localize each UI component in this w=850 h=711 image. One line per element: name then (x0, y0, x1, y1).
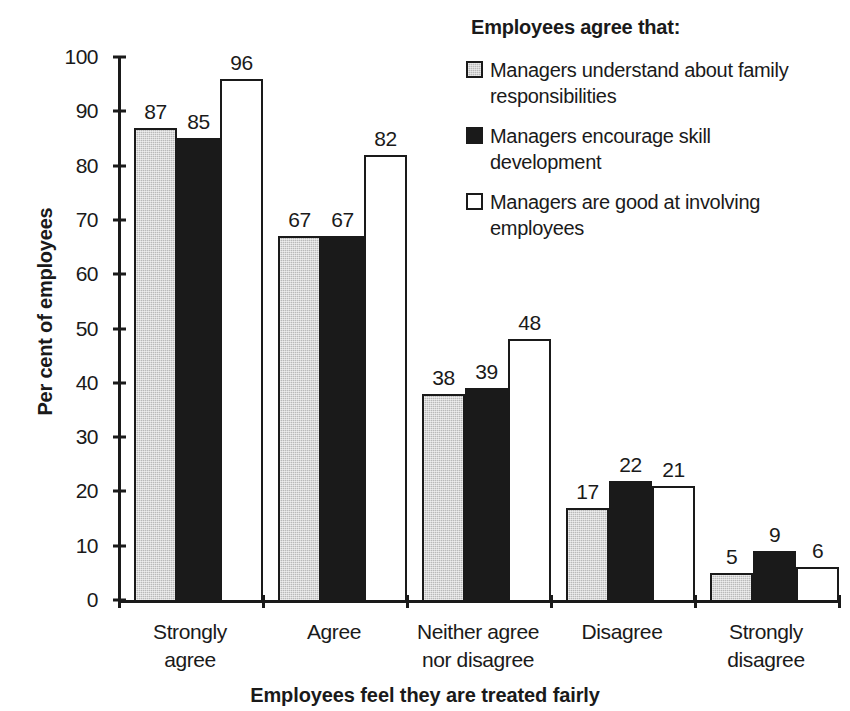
legend-item-label-line: Managers understand about family (490, 57, 788, 83)
y-tick-mark (113, 110, 126, 113)
x-category-label: Disagree (582, 618, 663, 646)
bar-chart: Per cent of employees 010203040506070809… (0, 0, 850, 711)
bar-value-label: 21 (662, 458, 684, 482)
bar-value-label: 22 (619, 453, 641, 477)
bar (796, 567, 839, 602)
bar-value-label: 67 (331, 208, 353, 232)
y-tick-label: 80 (42, 154, 98, 178)
legend: Employees agree that: Managers understan… (466, 16, 844, 255)
y-tick-mark (113, 56, 126, 59)
bar-value-label: 48 (518, 311, 540, 335)
x-tick-mark (118, 595, 121, 608)
x-category-label: Neither agreenor disagree (417, 618, 539, 674)
y-tick-mark (113, 381, 126, 384)
bar-value-label: 87 (144, 100, 166, 124)
legend-item: Managers understand about familyresponsi… (466, 57, 844, 109)
bar-value-label: 85 (187, 110, 209, 134)
y-tick-mark (113, 218, 126, 221)
x-axis-title: Employees feel they are treated fairly (0, 684, 850, 707)
legend-item: Managers encourage skilldevelopment (466, 123, 844, 175)
legend-item: Managers are good at involvingemployees (466, 189, 844, 241)
y-tick-label: 30 (42, 425, 98, 449)
y-tick-label: 50 (42, 317, 98, 341)
x-category-label-line: Neither agree (417, 618, 539, 646)
y-tick-label: 0 (42, 588, 98, 612)
x-category-label-line: nor disagree (417, 646, 539, 674)
legend-item-label: Managers understand about familyresponsi… (490, 57, 788, 109)
bar (278, 236, 321, 602)
legend-items: Managers understand about familyresponsi… (466, 57, 844, 241)
legend-item-label: Managers encourage skilldevelopment (490, 123, 711, 175)
x-category-label: Stronglydisagree (727, 618, 804, 674)
bar-value-label: 9 (769, 523, 780, 547)
bar-value-label: 17 (576, 480, 598, 504)
legend-swatch-black-icon (466, 127, 483, 144)
bar-value-label: 6 (812, 539, 823, 563)
x-category-label-line: Agree (307, 618, 361, 646)
legend-title: Employees agree that: (471, 16, 844, 39)
bar (134, 128, 177, 602)
bar-value-label: 5 (726, 545, 737, 569)
y-tick-label: 20 (42, 479, 98, 503)
bar-value-label: 39 (475, 360, 497, 384)
bar-value-label: 67 (288, 208, 310, 232)
x-category-label-line: agree (153, 646, 227, 674)
legend-item-label: Managers are good at involvingemployees (490, 189, 760, 241)
x-category-label-line: Strongly (153, 618, 227, 646)
legend-item-label-line: development (490, 149, 711, 175)
bar (321, 236, 364, 602)
bar (422, 394, 465, 602)
y-tick-mark (113, 544, 126, 547)
legend-item-label-line: Managers are good at involving (490, 189, 760, 215)
y-axis-line (118, 57, 121, 603)
y-tick-mark (113, 273, 126, 276)
y-tick-mark (113, 490, 126, 493)
bar-value-label: 38 (432, 366, 454, 390)
y-tick-label: 70 (42, 208, 98, 232)
legend-item-label-line: Managers encourage skill (490, 123, 711, 149)
y-tick-label: 90 (42, 99, 98, 123)
bar (710, 573, 753, 602)
x-category-label-line: disagree (727, 646, 804, 674)
y-tick-label: 60 (42, 262, 98, 286)
x-category-label: Agree (307, 618, 361, 646)
x-category-label-line: Strongly (727, 618, 804, 646)
bar (652, 486, 695, 602)
bar (508, 339, 551, 602)
legend-swatch-gray-icon (466, 61, 483, 78)
legend-swatch-white-icon (466, 193, 483, 210)
y-tick-mark (113, 436, 126, 439)
legend-item-label-line: employees (490, 215, 760, 241)
bar (465, 388, 508, 602)
bar (364, 155, 407, 602)
bar (753, 551, 796, 602)
bar (609, 481, 652, 602)
legend-item-label-line: responsibilities (490, 83, 788, 109)
bar-value-label: 82 (374, 127, 396, 151)
y-tick-label: 100 (42, 45, 98, 69)
bar (220, 79, 263, 602)
x-category-label: Stronglyagree (153, 618, 227, 674)
y-tick-label: 10 (42, 534, 98, 558)
y-tick-label: 40 (42, 371, 98, 395)
bar (566, 508, 609, 602)
y-tick-mark (113, 327, 126, 330)
x-category-label-line: Disagree (582, 618, 663, 646)
bar (177, 138, 220, 602)
y-tick-mark (113, 164, 126, 167)
bar-value-label: 96 (230, 51, 252, 75)
